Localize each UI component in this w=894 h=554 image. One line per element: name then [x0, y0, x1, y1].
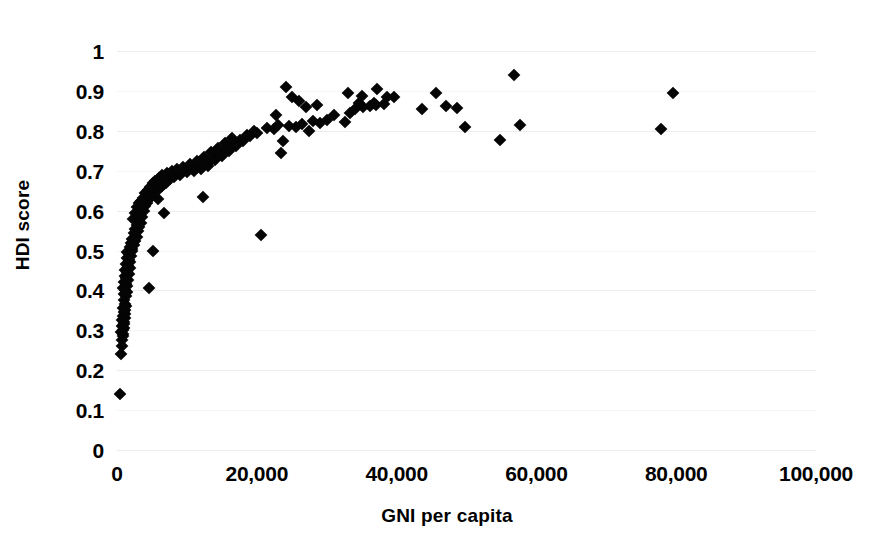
plot-area: [117, 51, 816, 450]
data-point: [341, 87, 354, 100]
y-tick-label: 0.9: [46, 80, 104, 101]
data-point: [415, 102, 428, 115]
data-point: [666, 87, 679, 100]
x-tick-label: 60,000: [505, 462, 567, 486]
gridline: [117, 91, 816, 92]
data-point: [508, 69, 521, 82]
data-point: [439, 100, 452, 113]
x-tick-label: 20,000: [226, 462, 288, 486]
data-point: [277, 134, 290, 147]
y-tick-label: 0.6: [46, 200, 104, 221]
y-tick-label: 0: [46, 440, 104, 461]
data-point: [255, 228, 268, 241]
scatter-chart: HDI score 00.10.20.30.40.50.60.70.80.91 …: [0, 0, 894, 554]
gridline: [117, 51, 816, 52]
data-point: [274, 146, 287, 159]
data-point: [494, 134, 507, 147]
gridline: [117, 450, 816, 451]
data-point: [654, 122, 667, 135]
y-tick-label: 1: [46, 41, 104, 62]
data-point: [311, 98, 324, 111]
gridline: [117, 251, 816, 252]
gridline: [117, 171, 816, 172]
gridline: [117, 290, 816, 291]
gridline: [117, 211, 816, 212]
gridline: [117, 410, 816, 411]
x-tick-label: 80,000: [645, 462, 707, 486]
data-point: [513, 118, 526, 131]
x-axis-title: GNI per capita: [0, 505, 894, 527]
data-point: [270, 108, 283, 121]
y-tick-label: 0.4: [46, 280, 104, 301]
data-point: [371, 83, 384, 96]
data-point: [197, 190, 210, 203]
y-tick-label: 0.7: [46, 160, 104, 181]
y-tick-label: 0.2: [46, 360, 104, 381]
data-point: [146, 244, 159, 257]
y-tick-label: 0.8: [46, 120, 104, 141]
data-point: [157, 206, 170, 219]
gridline: [117, 330, 816, 331]
x-tick-label: 0: [111, 462, 122, 486]
y-tick-label: 0.1: [46, 400, 104, 421]
y-axis-title-label: HDI score: [12, 180, 34, 271]
gridline: [117, 370, 816, 371]
y-tick-label: 0.3: [46, 320, 104, 341]
x-tick-label: 100,000: [779, 462, 853, 486]
data-point: [429, 87, 442, 100]
y-tick-label: 0.5: [46, 240, 104, 261]
x-tick-label: 40,000: [365, 462, 427, 486]
x-axis-title-label: GNI per capita: [381, 505, 513, 526]
data-point: [450, 101, 463, 114]
data-point: [143, 282, 156, 295]
x-axis-tick-labels: 020,00040,00060,00080,000100,000: [0, 462, 894, 492]
data-point: [113, 388, 126, 401]
